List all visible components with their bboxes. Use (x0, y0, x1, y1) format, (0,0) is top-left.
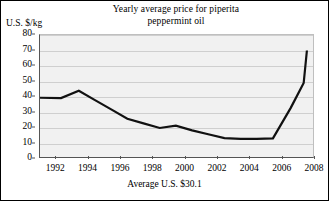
x-tick-mark (120, 156, 121, 159)
chart-title: Yearly average price for piperita pepper… (61, 4, 291, 27)
x-tick-mark (185, 156, 186, 159)
x-tick-mark (152, 156, 153, 159)
x-tick-label: 1998 (143, 163, 162, 173)
y-tick-mark (32, 158, 35, 159)
x-tick-label: 2006 (272, 163, 291, 173)
y-tick-label: 80 (23, 29, 33, 39)
y-tick-mark (32, 34, 35, 35)
chart-figure: Yearly average price for piperita pepper… (0, 0, 329, 201)
y-tick-mark (32, 80, 35, 81)
x-tick-label: 1992 (46, 163, 65, 173)
x-tick-label: 2002 (207, 163, 226, 173)
series-line-price (40, 35, 315, 159)
x-tick-label: 2008 (305, 163, 324, 173)
x-tick-label: 1994 (78, 163, 97, 173)
x-tick-mark (249, 156, 250, 159)
x-tick-mark (282, 156, 283, 159)
y-tick-label: 30 (23, 107, 33, 117)
x-tick-label: 2000 (175, 163, 194, 173)
chart-title-line-2: peppermint oil (61, 16, 291, 28)
y-tick-label: 50 (23, 76, 33, 86)
chart-footnote: Average U.S. $30.1 (1, 179, 328, 189)
x-tick-mark (55, 156, 56, 159)
y-axis-tick-labels: 01020304050607080 (1, 34, 35, 158)
x-tick-label: 2004 (240, 163, 259, 173)
y-tick-mark (32, 65, 35, 66)
x-tick-mark (314, 156, 315, 159)
y-axis-label: U.S. $/kg (6, 18, 42, 28)
y-tick-mark (32, 96, 35, 97)
plot-wrapper (39, 34, 314, 158)
y-tick-label: 20 (23, 122, 33, 132)
y-tick-mark (32, 142, 35, 143)
x-tick-mark (88, 156, 89, 159)
chart-title-line-1: Yearly average price for piperita (113, 4, 239, 14)
y-tick-mark (32, 111, 35, 112)
y-tick-mark (32, 127, 35, 128)
x-tick-mark (217, 156, 218, 159)
y-tick-label: 10 (23, 138, 33, 148)
y-tick-label: 60 (23, 60, 33, 70)
plot-area (39, 34, 314, 158)
x-tick-label: 1996 (110, 163, 129, 173)
y-tick-label: 70 (23, 45, 33, 55)
x-axis-tick-labels: 199219941996199820002002200420062008 (39, 159, 314, 175)
y-tick-label: 40 (23, 91, 33, 101)
y-tick-mark (32, 49, 35, 50)
